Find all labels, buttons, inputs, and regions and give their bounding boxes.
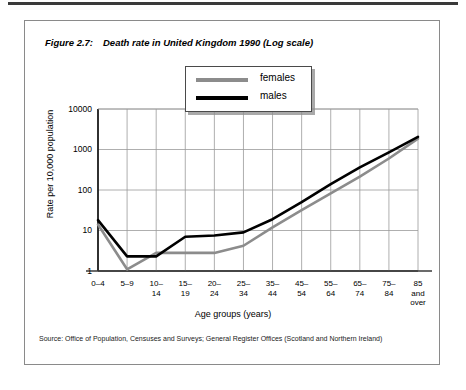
legend-label-males: males — [260, 90, 287, 101]
y-tick-1: 1 — [48, 266, 92, 276]
legend-swatch-males — [196, 96, 248, 100]
legend-swatch-females — [196, 78, 248, 82]
source-note: Source: Office of Population, Censuses a… — [39, 335, 382, 342]
y-tick-10: 10 — [48, 225, 92, 235]
legend-item-females: females — [186, 71, 311, 89]
y-tick-1000: 1000 — [48, 144, 92, 154]
y-tick-10000: 10000 — [48, 104, 92, 114]
top-rule — [8, 2, 458, 5]
chart-legend: females males — [185, 66, 312, 112]
y-tick-100: 100 — [48, 185, 92, 195]
x-tick-11: 85andover — [401, 279, 435, 308]
x-axis-title: Age groups (years) — [25, 309, 441, 319]
y-axis-title: Rate per 10,000 population — [45, 99, 55, 229]
figure-box: Figure 2.7:Death rate in United Kingdom … — [24, 20, 440, 365]
legend-item-males: males — [186, 89, 311, 107]
legend-label-females: females — [260, 72, 295, 83]
